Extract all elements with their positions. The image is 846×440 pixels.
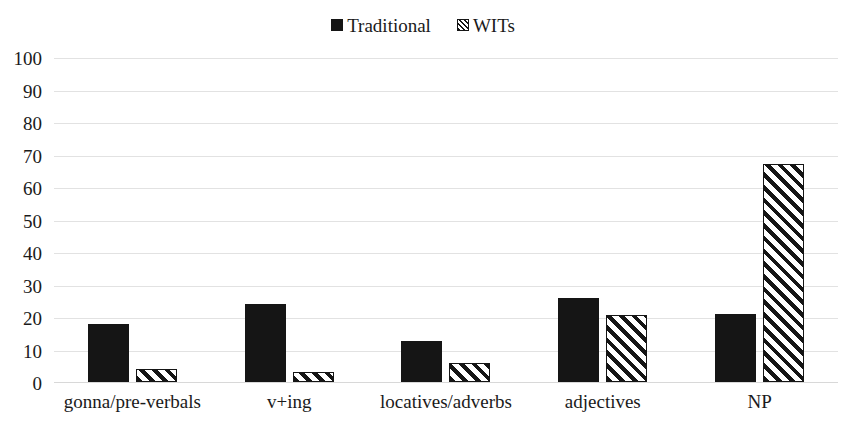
bar-wits <box>136 369 177 382</box>
hatched-square-icon <box>457 19 469 31</box>
plot-area: 100 90 80 70 60 50 40 30 20 10 0 <box>0 58 846 388</box>
y-tick-label: 60 <box>23 179 42 198</box>
y-tick-label: 40 <box>23 244 42 263</box>
bar-traditional <box>401 341 442 382</box>
solid-square-icon <box>331 19 343 31</box>
bar-chart: Traditional WITs 100 90 80 70 60 50 40 3… <box>0 0 846 440</box>
bar-group <box>681 58 838 382</box>
x-tick-label: adjectives <box>524 392 681 426</box>
chart-legend: Traditional WITs <box>0 12 846 38</box>
bar-traditional <box>715 314 756 382</box>
x-axis: gonna/pre-verbals v+ing locatives/adverb… <box>54 392 838 426</box>
bar-traditional <box>88 324 129 383</box>
bar-group <box>368 58 525 382</box>
y-tick-label: 50 <box>23 211 42 230</box>
y-tick-label: 90 <box>23 81 42 100</box>
bar-wits <box>449 363 490 383</box>
bar-group <box>524 58 681 382</box>
bar-traditional <box>245 304 286 382</box>
x-tick-label: locatives/adverbs <box>368 392 525 426</box>
axis-baseline <box>54 382 838 383</box>
y-tick-label: 10 <box>23 341 42 360</box>
bar-traditional <box>558 298 599 383</box>
y-tick-label: 70 <box>23 146 42 165</box>
legend-item-wits: WITs <box>457 16 515 35</box>
y-tick-label: 80 <box>23 114 42 133</box>
legend-label-traditional: Traditional <box>347 16 431 35</box>
x-tick-label: NP <box>681 392 838 426</box>
legend-label-wits: WITs <box>473 16 515 35</box>
y-axis: 100 90 80 70 60 50 40 30 20 10 0 <box>0 58 48 388</box>
bars-layer <box>54 58 838 382</box>
bar-wits <box>606 315 647 382</box>
x-tick-label: v+ing <box>211 392 368 426</box>
y-tick-label: 0 <box>33 374 43 393</box>
legend-item-traditional: Traditional <box>331 16 431 35</box>
bar-wits <box>763 164 804 382</box>
y-tick-label: 30 <box>23 276 42 295</box>
bar-group <box>211 58 368 382</box>
x-tick-label: gonna/pre-verbals <box>54 392 211 426</box>
y-tick-label: 20 <box>23 309 42 328</box>
y-tick-label: 100 <box>14 49 43 68</box>
grid-area <box>54 58 838 383</box>
bar-group <box>54 58 211 382</box>
bar-wits <box>293 372 334 382</box>
